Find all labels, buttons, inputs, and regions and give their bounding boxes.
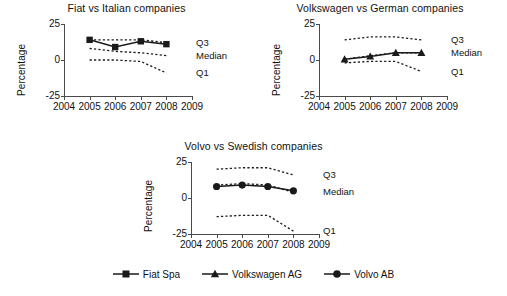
chart-panel-vw: Volkswagen vs German companies Percentag…	[253, 0, 507, 140]
annotation-q3-fiat: Q3	[196, 37, 209, 48]
circle-marker-icon	[324, 268, 350, 280]
data-point-marker	[112, 44, 118, 50]
series-line-q1	[217, 215, 294, 231]
data-point-marker	[239, 181, 246, 188]
data-lines-fiat	[0, 0, 253, 140]
figure-container: Fiat vs Italian companies Percentage 250…	[0, 0, 507, 296]
data-point-marker	[264, 183, 271, 190]
series-line-median	[217, 184, 294, 193]
legend-label: Volvo AB	[354, 269, 394, 280]
annotation-q1-fiat: Q1	[196, 67, 209, 78]
annotation-median-vw: Median	[451, 47, 482, 58]
series-line-median	[90, 48, 167, 55]
square-marker-icon	[113, 268, 139, 280]
data-point-marker	[163, 41, 169, 47]
data-lines-volvo	[127, 140, 380, 265]
legend-item-volkswagen-ag[interactable]: Volkswagen AG	[202, 268, 302, 280]
legend-item-fiat-spa[interactable]: Fiat Spa	[113, 268, 180, 280]
data-lines-vw	[253, 0, 507, 140]
annotation-q3-vw: Q3	[451, 34, 464, 45]
plot-area-fiat: 250-25200420052006200720082009Q3MedianQ1	[0, 0, 253, 140]
annotation-q3-volvo: Q3	[323, 169, 336, 180]
series-line-volvo-ab	[217, 185, 294, 191]
annotation-median-volvo: Median	[323, 186, 354, 197]
figure-legend: Fiat SpaVolkswagen AGVolvo AB	[0, 268, 507, 280]
legend-label: Fiat Spa	[143, 269, 180, 280]
plot-area-vw: 250-25200420052006200720082009Q3MedianQ1	[253, 0, 507, 140]
series-line-volkswagen-ag	[345, 53, 422, 59]
series-line-fiat-spa	[90, 40, 167, 47]
chart-panel-fiat: Fiat vs Italian companies Percentage 250…	[0, 0, 253, 140]
series-line-q1	[90, 60, 167, 73]
legend-item-volvo-ab[interactable]: Volvo AB	[324, 268, 394, 280]
data-point-marker	[138, 38, 144, 44]
plot-area-volvo: 250-25200420052006200720082009Q3MedianQ1	[127, 140, 380, 265]
series-line-q3	[345, 37, 422, 40]
annotation-q1-vw: Q1	[451, 66, 464, 77]
series-line-q3	[217, 168, 294, 175]
chart-panel-volvo: Volvo vs Swedish companies Percentage 25…	[127, 140, 380, 265]
annotation-median-fiat: Median	[196, 50, 227, 61]
data-point-marker	[290, 187, 297, 194]
triangle-marker-icon	[202, 268, 228, 280]
series-line-q1	[345, 61, 422, 71]
data-point-marker	[213, 183, 220, 190]
annotation-q1-volvo: Q1	[323, 225, 336, 236]
legend-label: Volkswagen AG	[232, 269, 302, 280]
